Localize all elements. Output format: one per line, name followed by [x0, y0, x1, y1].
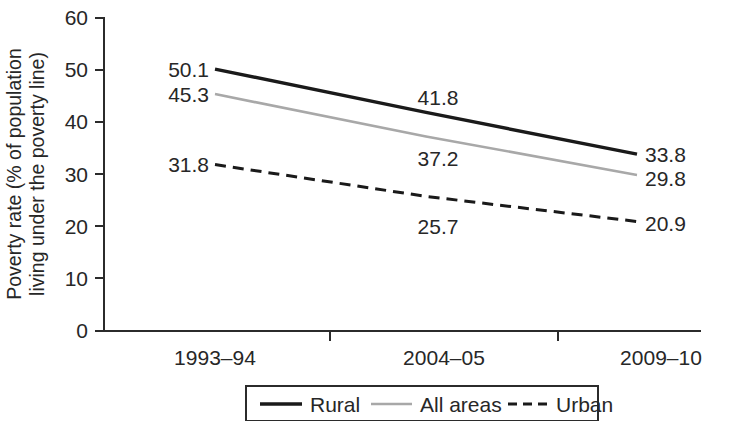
y-tick-label-20: 20 — [65, 215, 88, 238]
series-line-urban — [215, 165, 637, 222]
legend-label-rural: Rural — [310, 393, 360, 416]
y-axis-ticks: 60 50 40 30 20 10 0 — [65, 6, 104, 342]
y-axis-title: Poverty rate (% of population living und… — [3, 48, 48, 299]
data-label-rural-2004-05: 41.8 — [418, 86, 459, 109]
x-tick-label-1993-94: 1993–94 — [174, 346, 256, 369]
data-label-rural-1993-94: 50.1 — [168, 58, 209, 81]
legend-label-urban: Urban — [556, 393, 613, 416]
x-axis-ticks: 1993–94 2004–05 2009–10 — [174, 331, 702, 369]
chart-canvas: Poverty rate (% of population living und… — [0, 0, 735, 421]
data-label-all-areas-2009-10: 29.8 — [645, 167, 686, 190]
y-tick-label-40: 40 — [65, 110, 88, 133]
data-label-urban-2004-05: 25.7 — [418, 215, 459, 238]
data-label-all-areas-1993-94: 45.3 — [168, 83, 209, 106]
y-axis-title-line1: Poverty rate (% of population — [3, 48, 25, 299]
y-axis-title-line2: living under the poverty line) — [26, 52, 48, 296]
y-tick-label-30: 30 — [65, 163, 88, 186]
data-label-rural-2009-10: 33.8 — [645, 143, 686, 166]
y-tick-label-60: 60 — [65, 6, 88, 29]
chart-legend: Rural All areas Urban — [246, 386, 613, 421]
data-label-urban-2009-10: 20.9 — [645, 212, 686, 235]
legend-label-all-areas: All areas — [420, 393, 502, 416]
series-line-rural — [215, 69, 637, 154]
data-label-all-areas-2004-05: 37.2 — [418, 147, 459, 170]
x-tick-label-2009-10: 2009–10 — [620, 346, 702, 369]
poverty-rate-line-chart: Poverty rate (% of population living und… — [0, 0, 735, 421]
y-tick-label-0: 0 — [76, 319, 88, 342]
y-tick-label-10: 10 — [65, 267, 88, 290]
data-label-urban-1993-94: 31.8 — [168, 153, 209, 176]
x-tick-label-2004-05: 2004–05 — [403, 346, 485, 369]
y-tick-label-50: 50 — [65, 58, 88, 81]
